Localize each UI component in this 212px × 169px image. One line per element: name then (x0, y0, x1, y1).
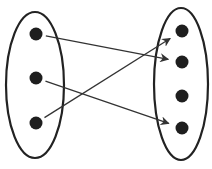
element-dot-L2 (30, 72, 43, 85)
mapping-diagram (0, 0, 212, 169)
mapping-arrow-L1-R2 (46, 36, 168, 59)
element-dot-R4 (176, 122, 189, 135)
element-dot-R1 (176, 25, 189, 38)
element-dot-L1 (30, 28, 43, 41)
element-dot-L3 (30, 117, 43, 130)
element-dot-R2 (176, 56, 189, 69)
element-dot-R3 (176, 90, 189, 103)
